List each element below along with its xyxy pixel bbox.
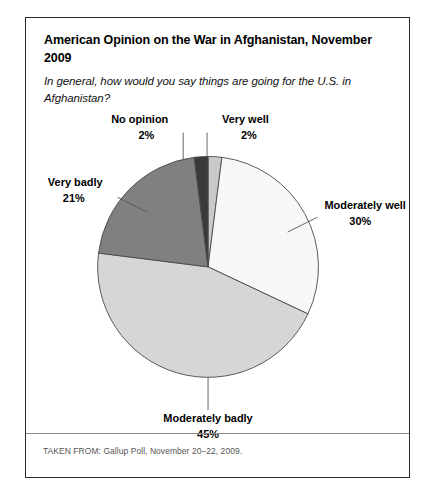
label-moderately-badly-name: Moderately badly [163, 412, 253, 424]
label-very-well-value: 2% [241, 129, 257, 141]
pie-slices [98, 156, 319, 377]
label-no-opinion-value: 2% [138, 129, 154, 141]
pie-chart: No opinion 2% Very well 2% Very badly 21… [26, 18, 409, 477]
source-divider [26, 433, 409, 434]
label-very-well-name: Very well [222, 113, 269, 125]
source-note: TAKEN FROM: Gallup Poll, November 20–22,… [43, 446, 242, 456]
pie-slice-very-badly [99, 157, 209, 267]
label-moderately-well-value: 30% [349, 215, 371, 227]
label-moderately-badly-value: 45% [197, 428, 219, 440]
label-moderately-well-name: Moderately well [324, 199, 405, 211]
figure-panel: American Opinion on the War in Afghanist… [25, 17, 410, 478]
label-no-opinion-name: No opinion [111, 113, 168, 125]
label-very-badly-value: 21% [63, 192, 85, 204]
label-very-badly-name: Very badly [48, 176, 104, 188]
